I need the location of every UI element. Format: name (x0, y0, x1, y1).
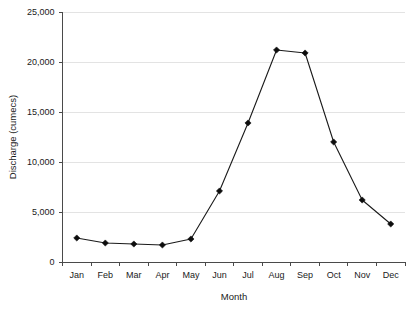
y-tick-label: 15,000 (27, 107, 55, 117)
y-tick-label: 0 (49, 257, 54, 267)
x-tick-label: Oct (327, 270, 342, 280)
x-tick-label: Mar (126, 270, 142, 280)
x-tick-label: Jun (212, 270, 227, 280)
y-axis-title: Discharge (cumecs) (7, 95, 18, 179)
x-tick-label: Jul (242, 270, 254, 280)
x-tick-label: Nov (354, 270, 371, 280)
chart-container: 05,00010,00015,00020,00025,000 JanFebMar… (0, 0, 413, 310)
x-tick-label: Feb (98, 270, 114, 280)
y-tick-label: 10,000 (27, 157, 55, 167)
x-tick-label: Aug (269, 270, 285, 280)
y-tick-label: 25,000 (27, 7, 55, 17)
x-tick-label: Dec (383, 270, 400, 280)
chart-background (0, 0, 413, 310)
y-tick-label: 20,000 (27, 57, 55, 67)
x-tick-label: May (182, 270, 200, 280)
y-tick-label: 5,000 (32, 207, 55, 217)
discharge-line-chart: 05,00010,00015,00020,00025,000 JanFebMar… (0, 0, 413, 310)
x-axis-title: Month (221, 291, 247, 302)
x-tick-label: Sep (297, 270, 313, 280)
x-tick-label: Jan (70, 270, 85, 280)
x-tick-label: Apr (155, 270, 169, 280)
